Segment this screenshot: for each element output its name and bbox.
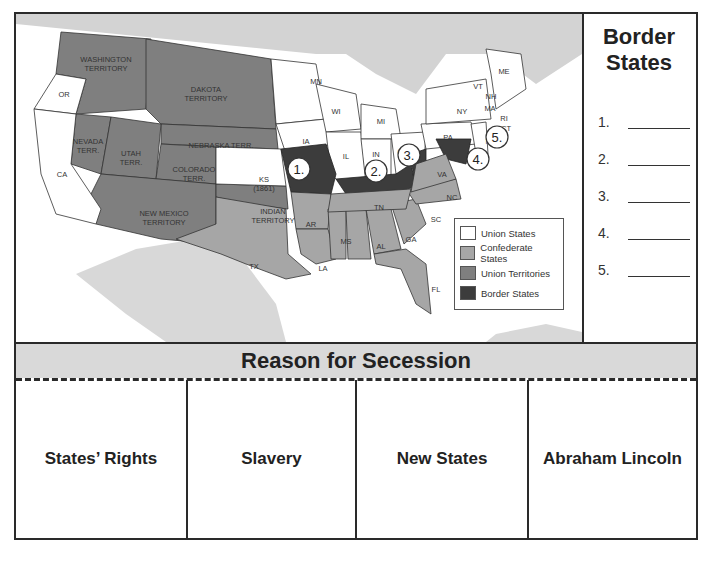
- svg-text:IL: IL: [343, 152, 349, 161]
- border-state-blank-5[interactable]: 5.: [598, 262, 690, 282]
- svg-text:MI: MI: [377, 117, 385, 126]
- svg-text:KS: KS: [259, 175, 269, 184]
- svg-text:FL: FL: [432, 285, 441, 294]
- svg-text:CA: CA: [57, 170, 67, 179]
- svg-text:TERRITORY: TERRITORY: [142, 218, 185, 227]
- legend-swatch: [460, 266, 476, 280]
- worksheet-frame: WASHINGTON TERRITORY OR DAKOTA TERRITORY…: [14, 12, 698, 540]
- cuba-region: [486, 324, 582, 342]
- border-states-title: Border States: [582, 24, 696, 76]
- svg-text:WASHINGTON: WASHINGTON: [80, 55, 131, 64]
- svg-text:IN: IN: [372, 150, 380, 159]
- marker-2: 2.: [371, 164, 382, 179]
- svg-text:TX: TX: [249, 262, 259, 271]
- svg-text:NEVADA: NEVADA: [73, 137, 103, 146]
- marker-1: 1.: [294, 162, 305, 177]
- svg-text:NY: NY: [457, 107, 467, 116]
- svg-text:NH: NH: [486, 92, 497, 101]
- legend-swatch: [460, 226, 476, 240]
- svg-text:NEW MEXICO: NEW MEXICO: [139, 209, 188, 218]
- svg-text:TN: TN: [374, 203, 384, 212]
- secession-columns: States’ Rights Slavery New States Abraha…: [16, 380, 696, 538]
- svg-text:SC: SC: [431, 215, 442, 224]
- svg-text:INDIAN: INDIAN: [260, 207, 285, 216]
- svg-text:LA: LA: [318, 264, 327, 273]
- column-states-rights[interactable]: States’ Rights: [16, 380, 188, 538]
- legend-item-union-states: Union States: [460, 223, 558, 243]
- svg-text:AR: AR: [306, 220, 317, 229]
- svg-text:TERRITORY: TERRITORY: [251, 216, 294, 225]
- legend-item-border-states: Border States: [460, 283, 558, 303]
- legend-item-confederate-states: Confederate States: [460, 243, 558, 263]
- answer-line: [628, 165, 690, 166]
- legend-swatch: [460, 286, 476, 300]
- svg-text:UTAH: UTAH: [121, 149, 141, 158]
- border-state-blank-2[interactable]: 2.: [598, 151, 690, 171]
- svg-text:DAKOTA: DAKOTA: [191, 85, 221, 94]
- border-state-blank-3[interactable]: 3.: [598, 188, 690, 208]
- svg-text:TERR.: TERR.: [183, 174, 206, 183]
- marker-4: 4.: [473, 152, 484, 167]
- svg-text:MN: MN: [310, 77, 322, 86]
- svg-text:GA: GA: [406, 235, 417, 244]
- column-new-states[interactable]: New States: [357, 380, 529, 538]
- legend-item-union-territories: Union Territories: [460, 263, 558, 283]
- column-slavery[interactable]: Slavery: [188, 380, 357, 538]
- answer-line: [628, 276, 690, 277]
- answer-line: [628, 239, 690, 240]
- border-state-blank-4[interactable]: 4.: [598, 225, 690, 245]
- svg-text:IA: IA: [302, 137, 309, 146]
- marker-3: 3.: [404, 148, 415, 163]
- answer-line: [628, 128, 690, 129]
- svg-text:PA: PA: [443, 133, 452, 142]
- svg-text:COLORADO: COLORADO: [173, 165, 216, 174]
- svg-text:ME: ME: [498, 67, 509, 76]
- border-state-blank-1[interactable]: 1.: [598, 114, 690, 134]
- svg-text:TERRITORY: TERRITORY: [84, 64, 127, 73]
- column-abraham-lincoln[interactable]: Abraham Lincoln: [529, 380, 696, 538]
- svg-text:MA: MA: [484, 104, 495, 113]
- marker-5: 5.: [492, 130, 503, 145]
- svg-text:(1861): (1861): [253, 184, 275, 193]
- civil-war-map: WASHINGTON TERRITORY OR DAKOTA TERRITORY…: [16, 14, 584, 342]
- svg-text:AL: AL: [376, 242, 385, 251]
- svg-text:TERR.: TERR.: [77, 146, 100, 155]
- svg-text:TERR.: TERR.: [120, 158, 143, 167]
- svg-text:VT: VT: [473, 82, 483, 91]
- svg-text:MS: MS: [340, 237, 351, 246]
- svg-text:TERRITORY: TERRITORY: [184, 94, 227, 103]
- svg-text:OR: OR: [58, 90, 70, 99]
- reason-for-secession-header: Reason for Secession: [16, 342, 696, 378]
- legend-swatch: [460, 246, 475, 260]
- svg-text:NC: NC: [447, 193, 458, 202]
- svg-text:VA: VA: [437, 170, 446, 179]
- svg-text:WI: WI: [331, 107, 340, 116]
- map-legend: Union States Confederate States Union Te…: [454, 218, 564, 310]
- svg-text:RI: RI: [500, 114, 508, 123]
- svg-text:NEBRASKA TERR.: NEBRASKA TERR.: [189, 141, 254, 150]
- answer-line: [628, 202, 690, 203]
- border-states-panel: Border States 1. 2. 3. 4. 5.: [582, 14, 696, 342]
